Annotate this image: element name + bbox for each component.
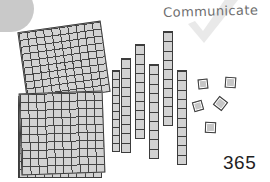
corner-decoration-shape: [0, 0, 34, 32]
ones-unit: [192, 100, 204, 112]
ones-unit: [205, 122, 216, 133]
hundreds-flat: [19, 91, 106, 176]
answer-value: 365: [223, 152, 256, 174]
tens-rod: [121, 58, 131, 153]
tens-rod: [112, 70, 120, 152]
tens-rod: [135, 44, 145, 139]
page-title: Communicate: [163, 3, 258, 20]
tens-rod: [149, 64, 159, 159]
ones-unit: [198, 79, 209, 90]
base-ten-blocks-illustration: Communicate 365: [0, 0, 270, 182]
ones-unit: [213, 96, 228, 111]
tens-rod: [163, 31, 173, 126]
ones-unit: [225, 77, 237, 89]
tens-rod: [177, 70, 187, 165]
